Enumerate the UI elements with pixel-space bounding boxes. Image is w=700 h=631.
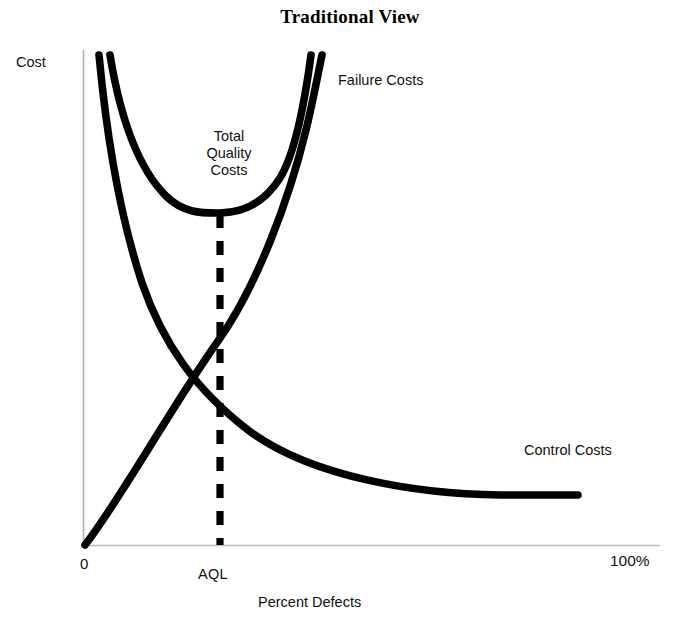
quality-cost-chart-figure: Traditional View Cost Failure Costs Cont… [0,0,700,631]
aql-marker-label: AQL [198,566,228,583]
x-axis-tick-max: 100% [610,552,650,570]
y-axis-label: Cost [16,54,46,71]
failure-costs-label: Failure Costs [338,72,423,89]
total-quality-costs-label: Total Quality Costs [186,128,272,179]
chart-plot-area [0,0,700,631]
total-quality-costs-label-line-3: Costs [186,162,272,179]
total-quality-costs-label-line-1: Total [186,128,272,145]
control-costs-curve [99,55,578,495]
x-axis-label: Percent Defects [258,594,361,611]
control-costs-label: Control Costs [524,442,612,459]
total-quality-costs-label-line-2: Quality [186,145,272,162]
x-axis-tick-min: 0 [80,555,88,573]
